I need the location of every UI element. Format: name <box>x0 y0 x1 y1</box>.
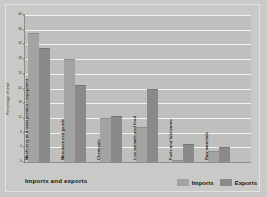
y-tick-label: 28 <box>18 57 22 60</box>
y-tick-label: 40 <box>18 13 22 16</box>
chart-title: Imports and exports <box>25 178 87 184</box>
bar-imports <box>100 118 111 162</box>
bar-exports <box>75 85 86 162</box>
plot-area: 0481216202428323640 Machinery and transp… <box>24 15 251 163</box>
bar-exports <box>39 48 50 162</box>
bar-group: Manufactured goods <box>64 15 95 162</box>
bar-imports <box>28 33 39 162</box>
y-tick-label: 32 <box>18 43 22 46</box>
bar-groups: Machinery and transportation equipmentMa… <box>25 15 251 162</box>
legend-swatch-exports <box>220 179 232 186</box>
category-label: Manufactured goods <box>61 119 65 160</box>
chart-figure: Percentage of total 0481216202428323640 … <box>0 0 267 197</box>
legend-label-imports: Imports <box>192 180 214 186</box>
category-label: Chemicals <box>97 139 101 160</box>
y-tick-label: 16 <box>18 101 22 104</box>
y-tick-label: 12 <box>18 116 22 119</box>
bar-group: Chemicals <box>100 15 131 162</box>
bar-exports <box>183 144 194 162</box>
category-label: Fuels and lubricants <box>169 119 173 160</box>
y-tick-label: 24 <box>18 72 22 75</box>
category-label: Live animals and food <box>133 116 137 160</box>
y-axis-title: Percentage of total <box>7 82 11 114</box>
category-label: Raw materials <box>205 132 209 160</box>
bar-exports <box>219 147 230 162</box>
bar-imports <box>172 160 183 162</box>
bar-imports <box>208 151 219 162</box>
bar-group: Raw materials <box>208 15 239 162</box>
legend-item-imports: Imports <box>177 179 214 186</box>
bar-group: Machinery and transportation equipment <box>28 15 59 162</box>
y-tick-label: 0 <box>20 160 22 163</box>
y-tick-label: 4 <box>20 146 22 149</box>
bar-exports <box>111 116 122 162</box>
bar-group: Live animals and food <box>136 15 167 162</box>
y-tick-label: 36 <box>18 28 22 31</box>
legend-item-exports: Exports <box>220 179 257 186</box>
y-tick-label: 20 <box>18 87 22 90</box>
category-label: Machinery and transportation equipment <box>25 79 29 160</box>
legend-label-exports: Exports <box>235 180 257 186</box>
bar-exports <box>147 89 158 163</box>
bar-imports <box>64 59 75 162</box>
chart-legend: Imports Exports <box>177 179 257 186</box>
bar-group: Fuels and lubricants <box>172 15 203 162</box>
bar-imports <box>136 127 147 162</box>
legend-swatch-imports <box>177 179 189 186</box>
y-tick-label: 8 <box>20 131 22 134</box>
